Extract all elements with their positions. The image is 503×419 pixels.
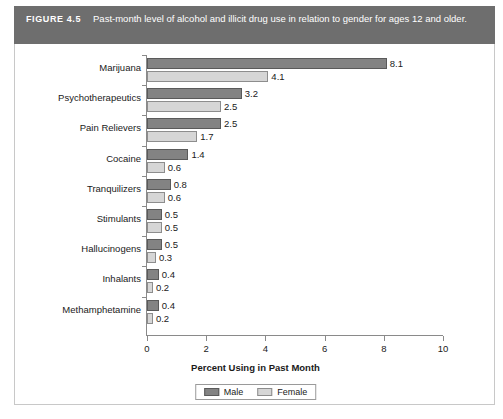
y-axis-tick [142, 297, 147, 298]
bar-value-label: 4.1 [271, 71, 284, 82]
y-axis-tick-label: Inhalants [102, 273, 141, 284]
x-axis-tick-label: 6 [322, 343, 327, 354]
x-axis-tick [206, 336, 207, 341]
y-axis-tick [142, 146, 147, 147]
x-axis-tick-label: 8 [381, 343, 386, 354]
bar-female [147, 131, 197, 142]
x-axis-tick [325, 336, 326, 341]
bar-male [147, 149, 188, 160]
y-axis-tick-label: Methamphetamine [62, 304, 141, 315]
bar-male [147, 88, 242, 99]
y-axis-tick [142, 266, 147, 267]
x-axis-title: Percent Using in Past Month [15, 362, 496, 373]
bar-male [147, 269, 159, 280]
bar-value-label: 1.7 [200, 131, 213, 142]
bar-value-label: 0.5 [165, 222, 178, 233]
chart-category-row: Inhalants0.40.2 [147, 269, 443, 295]
x-axis-tick-label: 4 [263, 343, 268, 354]
bar-male [147, 179, 171, 190]
chart-category-row: Hallucinogens0.50.3 [147, 239, 443, 265]
figure-panel: Marijuana8.14.1Psychotherapeutics3.22.5P… [14, 44, 495, 405]
y-axis-tick-label: Psychotherapeutics [58, 92, 141, 103]
y-axis-tick [142, 236, 147, 237]
bar-value-label: 0.2 [156, 282, 169, 293]
bar-value-label: 0.2 [156, 313, 169, 324]
y-axis-tick [142, 176, 147, 177]
bar-male [147, 239, 162, 250]
bar-value-label: 2.5 [224, 118, 237, 129]
bar-value-label: 0.3 [159, 252, 172, 263]
chart-category-row: Marijuana8.14.1 [147, 58, 443, 84]
chart-category-row: Stimulants0.50.5 [147, 209, 443, 235]
bar-female [147, 282, 153, 293]
y-axis-tick [142, 206, 147, 207]
bar-male [147, 300, 159, 311]
bar-male [147, 118, 221, 129]
bar-female [147, 71, 268, 82]
bar-female [147, 101, 221, 112]
bar-value-label: 2.5 [224, 101, 237, 112]
legend-item-male: Male [204, 387, 244, 397]
bar-value-label: 0.4 [162, 300, 175, 311]
bar-male [147, 58, 387, 69]
chart-category-row: Psychotherapeutics3.22.5 [147, 88, 443, 114]
y-axis-tick [142, 55, 147, 56]
bar-male [147, 209, 162, 220]
y-axis-tick-label: Stimulants [97, 213, 141, 224]
x-axis-tick [147, 336, 148, 341]
legend-swatch-male [204, 388, 219, 396]
legend-swatch-female [257, 388, 272, 396]
bar-female [147, 222, 162, 233]
plot-area: Marijuana8.14.1Psychotherapeutics3.22.5P… [147, 58, 443, 333]
y-axis-tick-label: Hallucinogens [81, 243, 141, 254]
bar-value-label: 8.1 [390, 58, 403, 69]
bar-value-label: 0.4 [162, 269, 175, 280]
x-axis-tick [443, 336, 444, 341]
legend-label-female: Female [277, 387, 307, 397]
y-axis-tick-label: Cocaine [106, 153, 141, 164]
bar-female [147, 313, 153, 324]
x-axis-line [146, 335, 443, 336]
figure-number-label: FIGURE 4.5 [26, 12, 81, 26]
bar-value-label: 3.2 [245, 88, 258, 99]
figure-header: FIGURE 4.5 Past-month level of alcohol a… [14, 6, 495, 44]
y-axis-tick-label: Pain Relievers [80, 122, 141, 133]
y-axis-tick [142, 85, 147, 86]
legend-item-female: Female [257, 387, 307, 397]
bar-female [147, 162, 165, 173]
bar-female [147, 252, 156, 263]
legend-label-male: Male [224, 387, 244, 397]
bar-value-label: 1.4 [191, 149, 204, 160]
bar-value-label: 0.8 [174, 179, 187, 190]
bar-value-label: 0.5 [165, 209, 178, 220]
chart-category-row: Cocaine1.40.6 [147, 149, 443, 175]
figure-caption: Past-month level of alcohol and illicit … [93, 12, 467, 25]
x-axis-tick [384, 336, 385, 341]
x-axis-tick-label: 10 [438, 343, 449, 354]
bar-chart: Marijuana8.14.1Psychotherapeutics3.22.5P… [15, 44, 496, 405]
y-axis-tick-label: Tranquilizers [87, 183, 141, 194]
bar-female [147, 192, 165, 203]
bar-value-label: 0.6 [168, 162, 181, 173]
chart-legend: Male Female [195, 384, 317, 400]
bar-value-label: 0.5 [165, 239, 178, 250]
bar-value-label: 0.6 [168, 192, 181, 203]
x-axis-tick-label: 0 [144, 343, 149, 354]
x-axis-tick [265, 336, 266, 341]
chart-category-row: Methamphetamine0.40.2 [147, 300, 443, 326]
chart-category-row: Tranquilizers0.80.6 [147, 179, 443, 205]
chart-category-row: Pain Relievers2.51.7 [147, 118, 443, 144]
y-axis-tick-label: Marijuana [99, 62, 141, 73]
y-axis-tick [142, 115, 147, 116]
x-axis-tick-label: 2 [204, 343, 209, 354]
